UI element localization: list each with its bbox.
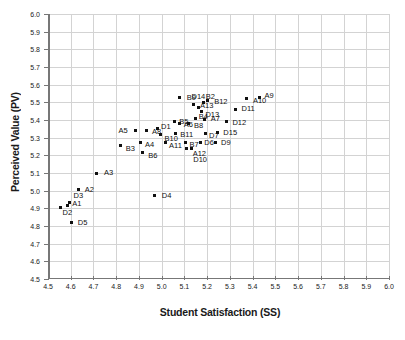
data-point-label: D2 [63,209,73,217]
x-axis-tick-label: 5.2 [202,283,212,290]
data-point-label: A1 [72,200,81,208]
x-axis-tick-label: 6.0 [384,283,394,290]
y-axis-tick-label: 4.8 [30,223,40,230]
y-axis-tick-label: 5.2 [30,152,40,159]
data-point-label: B11 [180,131,193,139]
data-point-marker [206,99,209,102]
data-point-marker [214,141,217,144]
data-point-marker [77,188,80,191]
data-point-marker [258,96,261,99]
data-point-marker [178,96,181,99]
x-axis-tick-label: 5.4 [248,283,258,290]
y-axis-tick-label: 5.8 [30,46,40,53]
data-point-label: A3 [104,169,113,177]
data-point-marker [134,129,137,132]
x-axis-tick-label: 5.8 [339,283,349,290]
data-point-label: A7 [211,115,220,123]
data-point-label: D5 [78,219,88,227]
y-axis-tick-label: 5.9 [30,28,40,35]
x-axis-tick-label: 5.3 [225,283,235,290]
data-point-marker [119,144,122,147]
x-axis-line [48,278,389,280]
data-point-marker [184,141,187,144]
data-point-label: D9 [221,139,231,147]
y-axis-tick-label: 4.5 [30,276,40,283]
data-point-marker [164,141,167,144]
data-point-label: D11 [242,105,255,113]
data-point-marker [153,194,156,197]
data-point-marker [173,120,176,123]
data-point-label: A5 [119,127,128,135]
gridline-vertical [389,14,390,279]
y-axis-tick-label: 5.3 [30,134,40,141]
data-point-marker [70,221,73,224]
y-axis-tick-label: 4.7 [30,240,40,247]
data-point-marker [178,122,181,125]
plot-area: 4.54.64.74.84.95.05.15.25.35.45.55.65.75… [48,14,389,279]
y-axis-tick-label: 5.6 [30,81,40,88]
data-point-label: D12 [232,119,246,127]
data-points-layer: A1D2D3D5A2A3B3A5A4B6A8D4D1B10A11B5B11A6B… [48,14,389,279]
x-axis-tick-label: 5.6 [293,283,303,290]
data-point-label: D3 [74,192,84,200]
data-point-marker [216,131,219,134]
x-axis-tick-label: 5.7 [316,283,326,290]
data-point-marker [245,97,248,100]
data-point-marker [200,110,203,113]
data-point-marker [194,117,197,120]
x-axis-tick-label: 4.9 [134,283,144,290]
data-point-marker [234,108,237,111]
data-point-label: D1 [161,123,171,131]
y-axis-tick [44,279,48,280]
y-axis-tick-label: 4.9 [30,205,40,212]
data-point-label: D15 [223,129,237,137]
data-point-marker [141,151,144,154]
data-point-label: D4 [162,192,172,200]
x-axis-tick-label: 4.5 [43,283,53,290]
data-point-marker [159,133,162,136]
x-axis-tick-label: 5.0 [157,283,167,290]
data-point-label: A4 [145,141,154,149]
data-point-marker [66,204,69,207]
y-axis-tick-label: 5.1 [30,170,40,177]
data-point-label: A2 [85,186,94,194]
x-axis-tick-label: 5.5 [270,283,280,290]
data-point-marker [156,127,159,130]
data-point-marker [225,120,228,123]
x-axis-tick-label: 4.8 [111,283,121,290]
x-axis-tick-label: 4.6 [66,283,76,290]
data-point-marker [139,141,142,144]
data-point-label: A11 [169,142,182,150]
y-axis-tick-label: 6.0 [30,11,40,18]
data-point-marker [187,122,190,125]
data-point-label: A9 [264,92,273,100]
x-axis-tick-label: 5.1 [180,283,190,290]
data-point-marker [174,132,177,135]
data-point-label: D14 [191,93,205,101]
data-point-label: B12 [214,98,227,106]
data-point-label: B3 [126,145,135,153]
data-point-marker [199,141,202,144]
y-axis-title: Perceived Value (PV) [4,0,26,285]
y-axis-tick-label: 5.0 [30,187,40,194]
y-axis-tick-label: 4.6 [30,258,40,265]
y-axis-tick-label: 5.5 [30,99,40,106]
data-point-marker [204,132,207,135]
scatter-chart: Perceived Value (PV) 4.54.64.74.84.95.05… [0,0,405,340]
data-point-marker [95,172,98,175]
data-point-label: D10 [193,156,207,164]
x-axis-tick-label: 5.9 [361,283,371,290]
y-axis-tick-label: 5.4 [30,117,40,124]
y-axis-tick-label: 5.7 [30,64,40,71]
data-point-marker [192,103,195,106]
x-axis-title: Student Satisfaction (SS) [45,306,395,318]
data-point-label: B6 [148,152,157,160]
data-point-marker [185,147,188,150]
data-point-marker [68,201,71,204]
x-axis-tick-label: 4.7 [89,283,99,290]
data-point-marker [190,147,193,150]
data-point-marker [145,129,148,132]
data-point-marker [203,118,206,121]
x-axis-tick [389,276,390,280]
y-axis-line [48,14,50,279]
